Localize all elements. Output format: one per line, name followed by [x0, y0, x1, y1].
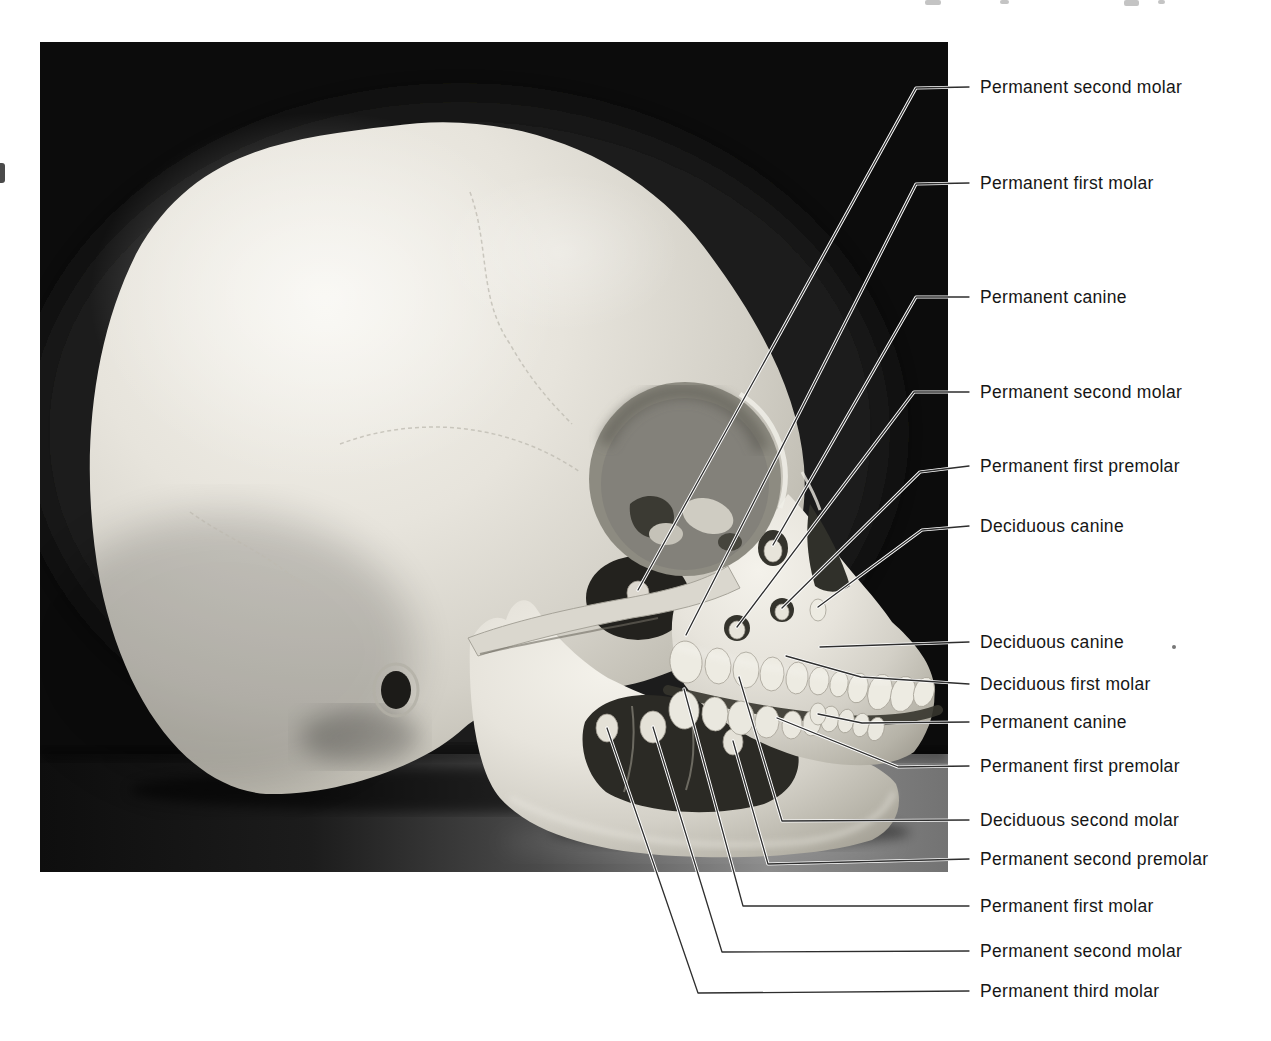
- tooth-label-2: Permanent first molar: [980, 173, 1154, 194]
- tooth-label-13: Permanent first molar: [980, 896, 1154, 917]
- page-left-edge-mark: [0, 163, 5, 183]
- unerupted-third-molar: [596, 714, 618, 742]
- tooth-label-1: Permanent second molar: [980, 77, 1182, 98]
- tooth-label-5: Permanent first premolar: [980, 456, 1180, 477]
- page-header-fragment-2: [1000, 0, 1009, 4]
- tooth-label-9: Permanent canine: [980, 712, 1127, 733]
- tooth-label-15: Permanent third molar: [980, 981, 1159, 1002]
- skull-photo: [40, 42, 948, 872]
- tooth-label-8: Deciduous first molar: [980, 674, 1151, 695]
- unerupted-permanent-canine: [764, 540, 782, 562]
- tooth-label-7: Deciduous canine: [980, 632, 1124, 653]
- tooth-label-3: Permanent canine: [980, 287, 1127, 308]
- unerupted-first-premolar: [775, 604, 789, 620]
- tooth-label-14: Permanent second molar: [980, 941, 1182, 962]
- erupting-lower-canine: [810, 703, 826, 725]
- page-header-fragment-1: [925, 0, 941, 5]
- upper-deciduous-canine-root: [810, 599, 826, 621]
- page-header-fragment-3: [1124, 0, 1139, 6]
- unerupted-second-molar: [640, 711, 666, 743]
- page-header-fragment-4: [1158, 0, 1165, 4]
- tooth-label-6: Deciduous canine: [980, 516, 1124, 537]
- tooth-label-12: Permanent second premolar: [980, 849, 1208, 870]
- tooth-label-11: Deciduous second molar: [980, 810, 1179, 831]
- skull-illustration: [40, 42, 948, 872]
- tooth-label-4: Permanent second molar: [980, 382, 1182, 403]
- tooth-label-10: Permanent first premolar: [980, 756, 1180, 777]
- stray-print-dot: [1172, 645, 1176, 649]
